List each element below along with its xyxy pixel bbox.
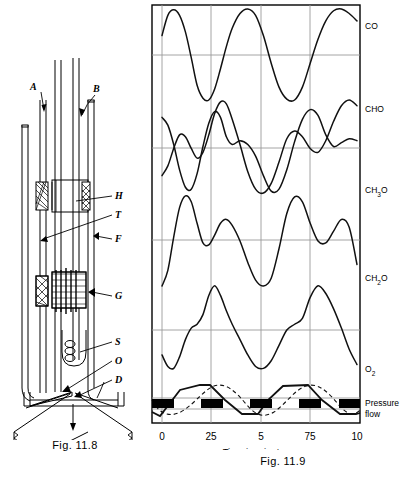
heater-hatch-right bbox=[82, 182, 90, 210]
sample-coil-S bbox=[62, 330, 86, 366]
tube-outer-right bbox=[88, 100, 94, 400]
trace-label-co: CO bbox=[365, 21, 378, 31]
callout-B: B bbox=[92, 83, 100, 94]
x-axis-ticks: 0 25 5 75 10 bbox=[159, 431, 363, 442]
xtick-0: 0 bbox=[159, 431, 165, 442]
callout-H: H bbox=[114, 190, 124, 201]
xtick-4: 10 bbox=[351, 431, 363, 442]
callout-S: S bbox=[115, 336, 121, 347]
trace-label-o2: O2 bbox=[365, 364, 376, 377]
trace-labels: CO CHO CH3O CH2O O2 Pressure flow bbox=[365, 21, 399, 419]
callout-D: D bbox=[114, 374, 122, 385]
callout-T: T bbox=[115, 209, 122, 220]
trace-label-flow: flow bbox=[365, 409, 381, 419]
apparatus-diagram: A B H T F G S O D bbox=[0, 0, 150, 477]
trace-label-ch3o: CH3O bbox=[365, 185, 388, 198]
oscillation-chart: CO CHO CH3O CH2O O2 Pressure flow 0 25 5… bbox=[150, 0, 416, 455]
heater-hatch-left bbox=[36, 182, 48, 210]
callout-O: O bbox=[115, 355, 122, 366]
chart-frame bbox=[152, 5, 360, 423]
xtick-1: 25 bbox=[205, 431, 217, 442]
callout-A: A bbox=[29, 81, 37, 92]
x-axis-title: Time in minutes bbox=[223, 446, 290, 450]
figure-caption-right: Fig. 11.9 bbox=[150, 455, 416, 467]
trace-label-ch2o: CH2O bbox=[365, 273, 388, 286]
trace-label-pressure: Pressure bbox=[365, 398, 399, 408]
figure-caption-left: Fig. 11.8 bbox=[0, 439, 150, 451]
trace-label-cho: CHO bbox=[365, 104, 384, 114]
callout-G: G bbox=[115, 290, 123, 301]
tube-outer-left bbox=[22, 125, 30, 401]
xtick-3: 75 bbox=[304, 431, 316, 442]
coil-assembly-G bbox=[36, 268, 86, 314]
callout-F: F bbox=[114, 233, 122, 244]
xtick-2: 5 bbox=[258, 431, 264, 442]
burner-assembly bbox=[14, 392, 132, 440]
callout-leaders bbox=[40, 92, 112, 398]
